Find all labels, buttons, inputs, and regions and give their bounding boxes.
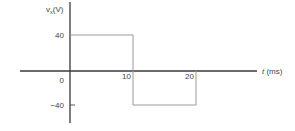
chart-canvas: vx(V) 40 −40 0 10 20 t (ms)	[0, 0, 295, 131]
x-tick-label-20: 20	[185, 72, 194, 81]
square-wave-trace	[70, 35, 196, 105]
y-tick-label-neg40: −40	[50, 101, 64, 110]
x-tick-label-0: 0	[60, 76, 65, 85]
y-axis-label: vx(V)	[46, 5, 64, 15]
x-axis-label: t (ms)	[262, 67, 283, 76]
y-tick-label-40: 40	[55, 31, 64, 40]
x-tick-label-10: 10	[122, 72, 131, 81]
